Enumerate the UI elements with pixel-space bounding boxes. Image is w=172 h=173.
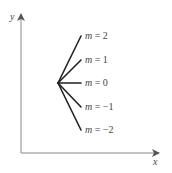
label-m-1: m = 1 (85, 54, 108, 65)
label-m-2: m = 2 (85, 30, 108, 41)
x-axis-label: x (152, 156, 158, 167)
fan-lines (58, 36, 81, 130)
label-m-neg2: m = −2 (85, 124, 114, 135)
slope-family-diagram: y x m = 2 m = 1 m = 0 m = −1 m = −2 (0, 0, 172, 173)
label-m-0: m = 0 (85, 77, 108, 88)
line-m-1 (58, 60, 81, 83)
label-m-neg1: m = −1 (85, 101, 114, 112)
line-m--1 (58, 83, 81, 107)
y-axis-label: y (9, 11, 15, 22)
line-m-2 (58, 36, 81, 83)
line-m--2 (58, 83, 81, 130)
fan-labels: m = 2 m = 1 m = 0 m = −1 m = −2 (85, 30, 114, 135)
